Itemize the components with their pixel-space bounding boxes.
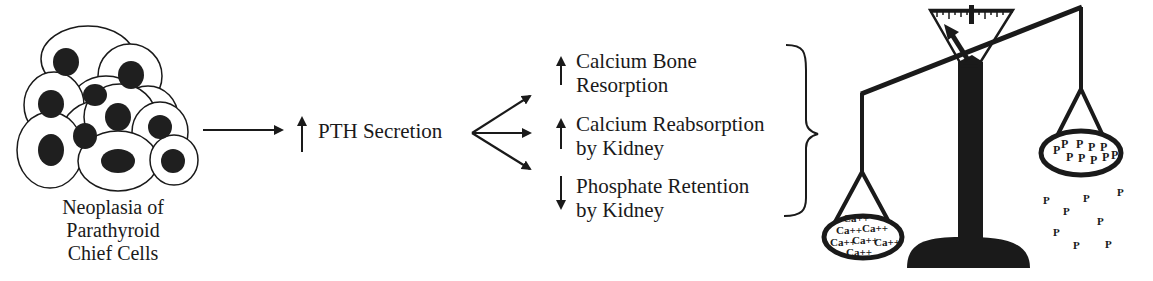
phosphate-symbol: P: [1073, 239, 1080, 251]
phosphate-symbol: P: [1066, 150, 1073, 165]
brace-icon: [784, 45, 818, 216]
phosphate-symbol: P: [1078, 151, 1085, 166]
effect-phosphate-retention: Phosphate Retention by Kidney: [576, 174, 749, 222]
phosphate-symbol: P: [1053, 226, 1060, 238]
effect-bone-resorption: Calcium Bone Resorption: [576, 49, 697, 97]
pth-secretion-label: PTH Secretion: [318, 119, 442, 143]
branch-arrows-icon: [472, 96, 530, 169]
calcium-symbol: Ca++: [874, 236, 900, 248]
effect-line: Calcium Bone: [576, 49, 697, 73]
effect-line: Phosphate Retention: [576, 174, 749, 198]
phosphate-symbol: P: [1102, 150, 1109, 165]
phosphate-symbol: P: [1117, 186, 1124, 198]
phosphate-symbol: P: [1090, 153, 1097, 168]
effect-line: by Kidney: [576, 136, 764, 160]
effect-calcium-reabsorption: Calcium Reabsorption by Kidney: [576, 112, 764, 160]
phosphate-symbol: P: [1043, 194, 1050, 206]
phosphate-symbol: P: [1063, 205, 1070, 217]
phosphate-symbol: P: [1111, 148, 1118, 163]
phosphate-symbol: P: [1076, 137, 1083, 152]
calcium-symbol: Ca++: [862, 222, 888, 234]
effect-line: Calcium Reabsorption: [576, 112, 764, 136]
phosphate-symbol: P: [1097, 215, 1104, 227]
phosphate-symbol: P: [1083, 192, 1090, 204]
cells-caption: Neoplasia of Parathyroid Chief Cells: [28, 196, 198, 265]
caption-line: Parathyroid: [28, 219, 198, 242]
effect-line: by Kidney: [576, 198, 749, 222]
effect-line: Resorption: [576, 73, 697, 97]
phosphate-symbol: P: [1105, 238, 1112, 250]
phosphate-symbol: P: [1053, 143, 1060, 158]
caption-line: Chief Cells: [28, 242, 198, 265]
caption-line: Neoplasia of: [28, 196, 198, 219]
calcium-symbol: Ca++: [846, 246, 872, 258]
